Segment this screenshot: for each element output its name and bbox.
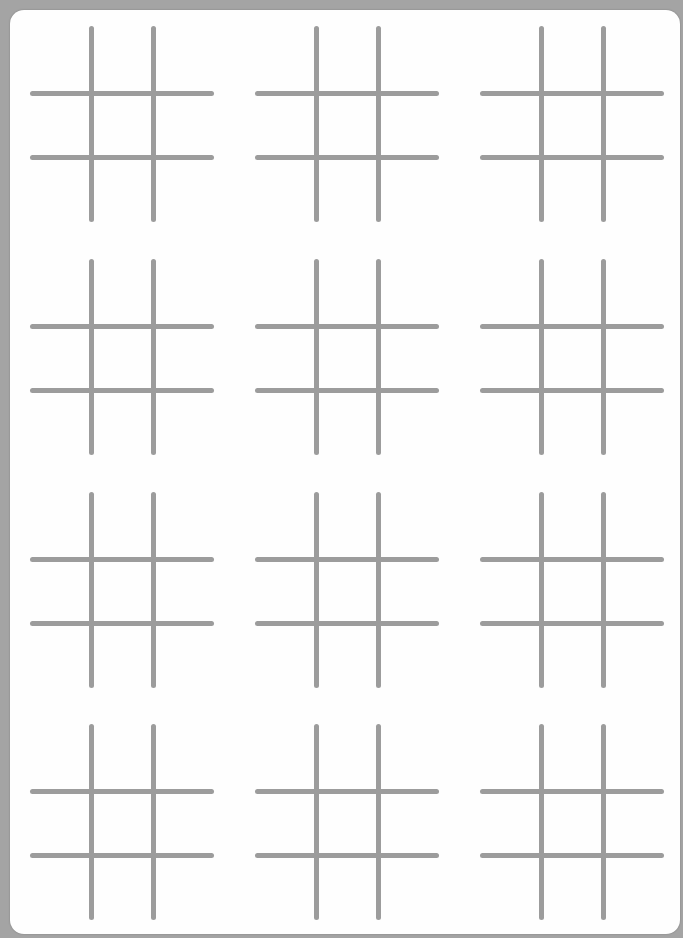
grid-line-horizontal (480, 91, 664, 96)
grid-line-horizontal (255, 91, 439, 96)
grid-line-vertical (151, 26, 156, 222)
grid-line-horizontal (30, 557, 214, 562)
tic-tac-toe-board[interactable] (255, 492, 441, 690)
grid-line-vertical (376, 724, 381, 920)
tic-tac-toe-board[interactable] (255, 26, 441, 224)
tic-tac-toe-board[interactable] (30, 26, 216, 224)
grid-line-vertical (601, 259, 606, 455)
grid-line-vertical (314, 724, 319, 920)
grid-line-horizontal (480, 557, 664, 562)
grid-line-horizontal (255, 853, 439, 858)
grid-line-horizontal (480, 789, 664, 794)
grid-line-horizontal (30, 853, 214, 858)
grid-line-vertical (89, 26, 94, 222)
tic-tac-toe-board[interactable] (480, 492, 666, 690)
tic-tac-toe-board[interactable] (30, 492, 216, 690)
grid-line-vertical (601, 724, 606, 920)
grid-line-vertical (539, 724, 544, 920)
tic-tac-toe-board[interactable] (255, 724, 441, 922)
grid-line-horizontal (30, 91, 214, 96)
grid-line-vertical (151, 259, 156, 455)
grid-line-horizontal (255, 557, 439, 562)
grid-line-vertical (151, 492, 156, 688)
tic-tac-toe-board[interactable] (30, 724, 216, 922)
grid-line-horizontal (30, 324, 214, 329)
grid-line-vertical (89, 724, 94, 920)
grid-line-vertical (314, 259, 319, 455)
grid-line-vertical (89, 259, 94, 455)
grid-line-horizontal (480, 621, 664, 626)
grid-line-vertical (539, 492, 544, 688)
tic-tac-toe-board[interactable] (255, 259, 441, 457)
page-title: Tic-Tac-Toe Boards (0, 0, 1, 1)
grid-line-horizontal (480, 853, 664, 858)
tic-tac-toe-board[interactable] (480, 724, 666, 922)
tic-tac-toe-board[interactable] (30, 259, 216, 457)
grid-line-horizontal (255, 789, 439, 794)
grid-line-horizontal (255, 388, 439, 393)
grid-line-vertical (539, 26, 544, 222)
tic-tac-toe-board[interactable] (480, 259, 666, 457)
grid-line-horizontal (30, 388, 214, 393)
grid-line-horizontal (30, 155, 214, 160)
grid-line-horizontal (480, 324, 664, 329)
grid-line-vertical (601, 492, 606, 688)
grid-line-horizontal (255, 621, 439, 626)
tic-tac-toe-board[interactable] (480, 26, 666, 224)
grid-line-vertical (539, 259, 544, 455)
grid-line-horizontal (480, 155, 664, 160)
grid-line-vertical (376, 492, 381, 688)
grid-line-vertical (376, 259, 381, 455)
grid-line-vertical (151, 724, 156, 920)
grid-line-vertical (314, 26, 319, 222)
game-sheet (10, 10, 680, 934)
grid-line-vertical (376, 26, 381, 222)
grid-line-horizontal (30, 621, 214, 626)
grid-line-vertical (89, 492, 94, 688)
grid-line-horizontal (255, 324, 439, 329)
grid-line-vertical (601, 26, 606, 222)
grid-line-horizontal (255, 155, 439, 160)
grid-line-horizontal (480, 388, 664, 393)
grid-line-vertical (314, 492, 319, 688)
grid-line-horizontal (30, 789, 214, 794)
